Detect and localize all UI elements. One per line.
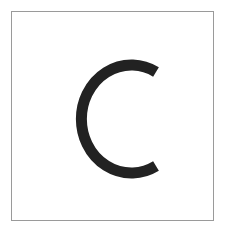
letter-c-glyph	[0, 0, 229, 237]
